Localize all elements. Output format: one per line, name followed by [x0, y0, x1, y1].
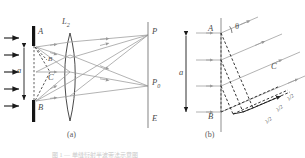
panel-b-group — [186, 17, 305, 132]
panel-b-label-theta: θ — [235, 22, 239, 31]
panel-a-label-aperture: a — [17, 66, 21, 75]
panel-a-label-B: B — [38, 103, 43, 112]
panel-a-lens — [65, 33, 76, 121]
panel-a-label-A: A — [38, 27, 43, 36]
panel-b-sublabel: (b) — [205, 130, 214, 139]
figure-caption: 图 1 — 单缝衍射半波带法示意图 — [52, 150, 138, 158]
panel-a-label-b-small: B — [48, 56, 52, 63]
panel-a-lens-subscript: 2 — [67, 22, 70, 28]
panel-a-group — [4, 22, 148, 128]
panel-a-P0-subscript: 0 — [157, 83, 160, 89]
panel-b-label-B: B — [208, 112, 213, 121]
panel-a-label-screen-E: E — [152, 114, 157, 123]
panel-b-label-C: C — [271, 62, 277, 71]
panel-a-label-lens: L2 — [62, 17, 70, 28]
optics-diffraction-figure: A B a B C L2 P P0 E (a) A B a θ C λ/2 λ/… — [0, 0, 305, 158]
panel-a-label-C: C — [48, 73, 54, 82]
panel-b-label-A: A — [208, 24, 213, 33]
panel-b-incoming-rays — [196, 33, 221, 112]
panel-a-label-P0: P0 — [152, 78, 160, 89]
panel-b-theta-arc — [230, 26, 232, 33]
panel-a-sublabel: (a) — [67, 130, 76, 139]
panel-a-label-P: P — [152, 27, 157, 36]
panel-b-label-aperture: a — [179, 68, 183, 77]
panel-b-incoming-arrowheads — [206, 33, 212, 112]
